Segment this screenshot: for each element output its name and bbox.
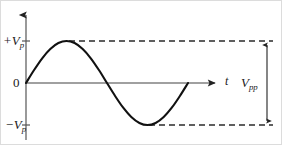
waveform-canvas: [1, 1, 282, 145]
zero-label: 0: [13, 76, 20, 89]
negative-peak-label-subscript: p: [22, 124, 26, 134]
time-axis-label: t: [225, 75, 228, 87]
negative-peak-label: −Vp: [5, 118, 26, 131]
positive-peak-label-subscript: p: [20, 40, 24, 50]
positive-peak-label: +Vp: [3, 34, 24, 47]
peak-to-peak-label: Vpp: [241, 76, 258, 89]
waveform-figure: +Vp 0 −Vp t Vpp: [0, 0, 282, 145]
peak-to-peak-label-subscript: pp: [249, 82, 258, 92]
positive-peak-label-text: +V: [3, 33, 20, 48]
negative-peak-label-text: −V: [5, 117, 22, 132]
peak-to-peak-label-text: V: [241, 75, 249, 90]
